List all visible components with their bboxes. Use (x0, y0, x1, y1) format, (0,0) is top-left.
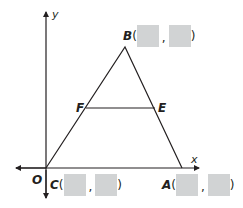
y-axis-label: y (52, 9, 59, 20)
point-b-coordinates: B ( , ) (123, 25, 195, 47)
close-paren: ) (117, 179, 122, 191)
comma: , (89, 181, 93, 196)
point-a-x-answer-box[interactable] (176, 174, 198, 196)
point-a-y-answer-box[interactable] (208, 174, 230, 196)
point-e-label: E (158, 102, 166, 114)
point-a-coordinates: A ( , ) (162, 174, 235, 196)
close-paren: ) (191, 30, 196, 42)
point-b-label: B (123, 30, 132, 42)
point-a-label: A (162, 179, 171, 191)
point-b-y-answer-box[interactable] (169, 25, 191, 47)
point-c-label: C (50, 179, 59, 191)
point-c-y-answer-box[interactable] (95, 174, 117, 196)
comma: , (201, 181, 205, 196)
point-c-x-answer-box[interactable] (64, 174, 86, 196)
point-f-label: F (76, 102, 84, 114)
x-axis-label: x (191, 154, 198, 165)
point-c-coordinates: C ( , ) (50, 174, 122, 196)
comma: , (162, 32, 166, 47)
origin-label: O (32, 174, 42, 186)
point-b-x-answer-box[interactable] (137, 25, 159, 47)
close-paren: ) (230, 179, 235, 191)
